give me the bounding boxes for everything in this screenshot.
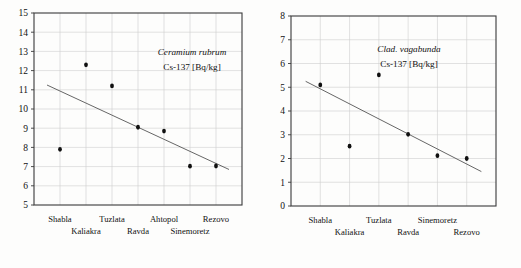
y-tick-label: 5 (280, 83, 285, 93)
x-axis-label: Rezovo (454, 227, 480, 237)
y-tick-label: 15 (19, 8, 29, 18)
gridlines-left (34, 13, 242, 205)
trendline-right (306, 81, 482, 171)
x-axis-labels-left: ShablaKaliakraTuzlataRavdaAhtopolSinemor… (48, 214, 229, 236)
data-point (406, 132, 410, 137)
x-axis-label: Kaliakra (71, 226, 101, 236)
x-axis-label: Sinemoretz (170, 226, 209, 236)
y-tick-label: 4 (280, 106, 285, 116)
x-axis-label: Sinemoretz (418, 215, 457, 225)
x-axis-labels-right: ShablaKaliakraTuzlataRavdaSinemoretzRezo… (309, 215, 480, 237)
data-point (318, 82, 322, 87)
data-points-right (318, 73, 468, 161)
data-point (436, 153, 440, 158)
data-point (58, 147, 62, 152)
y-axis-ticks-right: 012345678 (280, 11, 291, 211)
x-axis-label: Tuzlata (99, 214, 125, 224)
y-tick-label: 0 (280, 201, 285, 211)
annotation-species-right: Clad. vagabunda (377, 44, 441, 54)
y-tick-label: 1 (280, 178, 285, 188)
x-axis-label: Ahtopol (150, 214, 179, 224)
data-point (84, 62, 88, 67)
y-tick-label: 3 (280, 130, 285, 140)
data-point (136, 125, 140, 130)
x-axis-label: Shabla (309, 215, 333, 225)
annotation-unit-right: Cs-137 [Bq/kg] (380, 59, 437, 69)
y-tick-label: 6 (23, 181, 28, 191)
y-tick-label: 11 (19, 85, 28, 95)
data-point (162, 129, 166, 134)
x-axis-label: Tuzlata (366, 215, 392, 225)
x-axis-label: Rezovo (203, 214, 229, 224)
annotation-unit-left: Cs-137 [Bq/kg] (163, 62, 220, 72)
y-tick-label: 7 (280, 35, 285, 45)
y-tick-label: 7 (23, 162, 28, 172)
y-tick-label: 5 (23, 200, 28, 210)
y-tick-label: 2 (280, 154, 285, 164)
y-tick-label: 9 (23, 124, 28, 134)
chart-svg-right: 012345678 ShablaKaliakraTuzlataRavdaSine… (261, 0, 521, 268)
y-tick-label: 12 (19, 66, 29, 76)
x-axis-label: Ravda (397, 227, 419, 237)
data-point (465, 156, 469, 161)
y-tick-label: 8 (23, 143, 28, 153)
x-axis-label: Ravda (127, 226, 149, 236)
y-tick-label: 14 (19, 28, 29, 38)
y-tick-label: 13 (19, 47, 29, 57)
data-point (214, 164, 218, 169)
chart-svg-left: 56789101112131415 ShablaKaliakraTuzlataR… (0, 0, 260, 268)
x-axis-label: Kaliakra (335, 227, 365, 237)
data-point (188, 164, 192, 169)
y-tick-label: 8 (280, 11, 285, 21)
y-tick-label: 6 (280, 59, 285, 69)
data-point (377, 73, 381, 78)
figure-page: 56789101112131415 ShablaKaliakraTuzlataR… (0, 0, 521, 268)
chart-panel-ceramium-rubrum: 56789101112131415 ShablaKaliakraTuzlataR… (0, 0, 260, 268)
y-tick-label: 10 (19, 104, 29, 114)
data-point (110, 84, 114, 89)
annotation-species-left: Ceramium rubrum (158, 47, 227, 57)
y-axis-ticks-left: 56789101112131415 (19, 8, 35, 210)
regression-line (306, 81, 482, 171)
data-point (348, 144, 352, 149)
x-axis-label: Shabla (48, 214, 72, 224)
chart-panel-clad-vagabunda: 012345678 ShablaKaliakraTuzlataRavdaSine… (261, 0, 521, 268)
